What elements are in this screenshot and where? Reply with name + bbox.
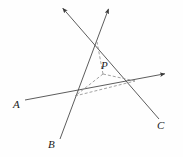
point-label-p: P <box>101 60 108 71</box>
ray-a-line <box>25 74 165 100</box>
dashed-cevian-left <box>75 74 103 96</box>
ray-b-line <box>60 9 109 139</box>
vertex-label-b: B <box>48 139 55 150</box>
geometry-canvas <box>0 0 183 157</box>
dashed-cevian-right <box>103 74 135 81</box>
vertex-label-c: C <box>157 120 164 131</box>
geometry-figure: A B C P <box>0 0 183 157</box>
vertex-label-a: A <box>13 99 20 110</box>
ray-c-line <box>63 8 159 119</box>
